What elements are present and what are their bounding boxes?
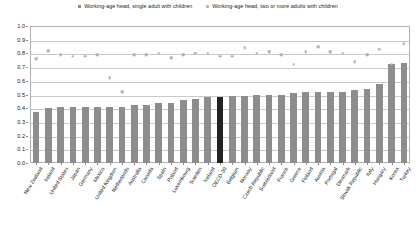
y-axis-tick-mark	[26, 26, 28, 27]
gridline	[31, 150, 409, 151]
x-axis-tick-mark	[73, 163, 74, 165]
x-axis-tick-mark	[208, 163, 209, 165]
y-axis-tick-label: 0.1	[17, 146, 25, 152]
x-axis: New ZealandIrelandUnited StatesJapanGerm…	[30, 164, 410, 229]
y-axis-tick-label: 0.2	[17, 133, 25, 139]
x-axis-tick-mark	[281, 163, 282, 165]
x-axis-tick-mark	[306, 163, 307, 165]
y-axis-tick-label: 0.6	[17, 78, 25, 84]
y-axis-tick-label: 0.3	[17, 119, 25, 125]
legend-entry-two-or-more-adults: Working-age head, two or more adults wit…	[206, 3, 337, 9]
y-axis-tick-label: 0.8	[17, 50, 25, 56]
x-axis-tick-mark	[294, 163, 295, 165]
y-axis-tick-mark	[26, 136, 28, 137]
gridline	[31, 96, 409, 97]
gridline	[31, 109, 409, 110]
y-axis-tick-mark	[26, 108, 28, 109]
x-axis-tick-mark	[195, 163, 196, 165]
x-axis-tick-mark	[110, 163, 111, 165]
y-axis-tick-label: 0.0	[17, 160, 25, 166]
x-axis-tick-mark	[146, 163, 147, 165]
x-axis-tick-mark	[122, 163, 123, 165]
x-axis-tick-label: Italy	[365, 166, 375, 177]
x-axis-tick-mark	[392, 163, 393, 165]
legend-label-single-adult: Working-age head, single adult with chil…	[84, 3, 192, 9]
gridline	[31, 41, 409, 42]
x-axis-tick-mark	[245, 163, 246, 165]
x-axis-tick-mark	[48, 163, 49, 165]
y-axis: 0.00.10.20.30.40.50.60.70.80.91.0	[0, 26, 28, 163]
x-axis-tick-mark	[61, 163, 62, 165]
y-axis-tick-mark	[26, 53, 28, 54]
y-axis-tick-mark	[26, 163, 28, 164]
x-axis-tick-mark	[269, 163, 270, 165]
x-axis-tick-mark	[183, 163, 184, 165]
y-axis-tick-mark	[26, 81, 28, 82]
x-axis-tick-mark	[367, 163, 368, 165]
square-marker-icon	[78, 5, 81, 8]
x-axis-tick-mark	[97, 163, 98, 165]
x-axis-tick-mark	[220, 163, 221, 165]
chart-container: Working-age head, single adult with chil…	[0, 0, 416, 229]
legend-entry-single-adult: Working-age head, single adult with chil…	[78, 3, 192, 9]
x-axis-tick-mark	[257, 163, 258, 165]
x-axis-tick-mark	[330, 163, 331, 165]
y-axis-tick-label: 1.0	[17, 23, 25, 29]
x-axis-tick-mark	[343, 163, 344, 165]
x-axis-tick-mark	[232, 163, 233, 165]
x-axis-tick-mark	[318, 163, 319, 165]
square-marker-icon	[206, 5, 209, 8]
x-axis-tick-mark	[379, 163, 380, 165]
y-axis-tick-mark	[26, 40, 28, 41]
x-axis-tick-mark	[171, 163, 172, 165]
y-axis-tick-mark	[26, 122, 28, 123]
gridline	[31, 123, 409, 124]
y-axis-tick-mark	[26, 67, 28, 68]
chart-legend: Working-age head, single adult with chil…	[0, 3, 416, 9]
legend-label-two-or-more-adults: Working-age head, two or more adults wit…	[212, 3, 337, 9]
x-axis-tick-label: New Zealand	[23, 166, 44, 195]
y-axis-tick-mark	[26, 95, 28, 96]
x-axis-tick-mark	[85, 163, 86, 165]
y-axis-tick-label: 0.5	[17, 92, 25, 98]
plot-area	[30, 26, 410, 163]
y-axis-tick-mark	[26, 149, 28, 150]
x-axis-tick-mark	[134, 163, 135, 165]
x-axis-tick-mark	[36, 163, 37, 165]
x-axis-tick-label: Greece	[288, 166, 302, 184]
y-axis-tick-label: 0.7	[17, 64, 25, 70]
x-axis-tick-mark	[355, 163, 356, 165]
gridline	[31, 68, 409, 69]
x-axis-tick-mark	[159, 163, 160, 165]
x-axis-tick-mark	[404, 163, 405, 165]
gridline	[31, 54, 409, 55]
y-axis-tick-label: 0.9	[17, 37, 25, 43]
gridline	[31, 82, 409, 83]
y-axis-tick-label: 0.4	[17, 105, 25, 111]
gridline	[31, 137, 409, 138]
